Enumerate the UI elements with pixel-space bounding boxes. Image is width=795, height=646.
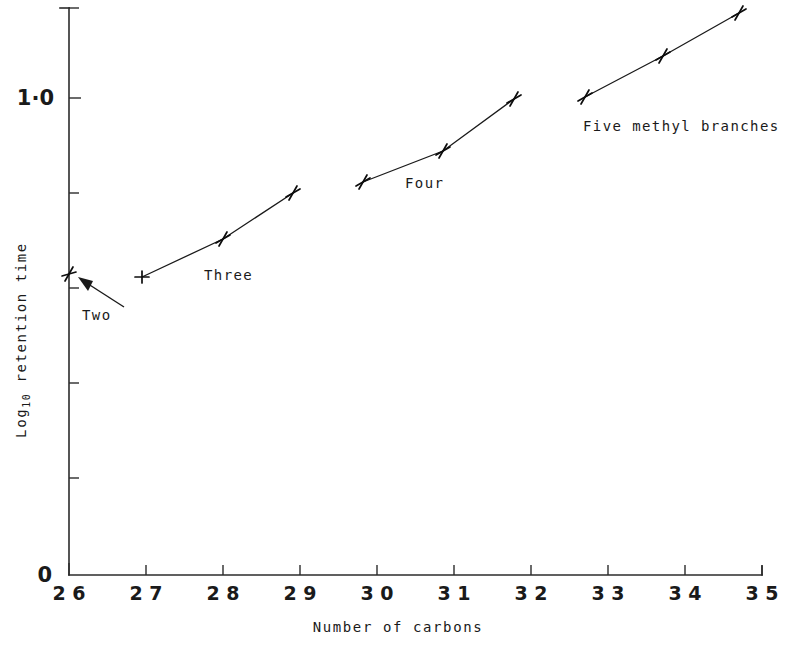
x-tick-label-27: 2 7 [129, 582, 162, 604]
series-three-line [142, 193, 293, 277]
y-tick-label-0: 0 [37, 563, 52, 587]
x-tick-label-29: 2 9 [283, 582, 316, 604]
y-axis-title-base: Log [13, 408, 29, 438]
x-tick-label-26: 2 6 [52, 582, 85, 604]
data-point-c32 [507, 92, 521, 106]
x-axis-ticks [69, 563, 762, 575]
y-tick-label-1-0: 1·0 [17, 86, 54, 110]
x-tick-label-34: 3 4 [668, 582, 701, 604]
data-point-c34 [656, 49, 670, 63]
series-two-label: Two [82, 307, 112, 323]
x-tick-label-31: 3 1 [437, 582, 470, 604]
data-point-c33 [578, 90, 592, 104]
y-axis-title-group: Log10 retention time [13, 242, 32, 438]
retention-time-plot: 1·0 0 2 6 2 7 2 8 2 9 3 0 3 1 3 2 3 3 3 … [0, 0, 795, 646]
series-four-label: Four [405, 175, 444, 191]
series-five: Five methyl branches [578, 6, 780, 134]
series-four: Four [356, 92, 521, 191]
x-tick-label-35: 3 5 [745, 582, 778, 604]
x-tick-label-28: 2 8 [206, 582, 239, 604]
y-axis-title-subscript: 10 [21, 393, 32, 408]
axes-group [60, 8, 762, 575]
x-tick-labels: 2 6 2 7 2 8 2 9 3 0 3 1 3 2 3 3 3 4 3 5 [52, 582, 778, 604]
data-point-c27 [135, 271, 149, 283]
data-point-c30 [356, 175, 370, 189]
x-tick-label-30: 3 0 [360, 582, 393, 604]
series-four-line [363, 99, 514, 182]
data-point-c31 [436, 144, 450, 158]
data-point-c35 [732, 6, 746, 20]
y-axis-title-rest: retention time [13, 242, 29, 392]
x-tick-label-33: 3 3 [591, 582, 624, 604]
x-tick-label-32: 3 2 [514, 582, 547, 604]
chart-figure: 1·0 0 2 6 2 7 2 8 2 9 3 0 3 1 3 2 3 3 3 … [0, 0, 795, 646]
y-axis-title: Log10 retention time [13, 242, 32, 438]
x-axis-title: Number of carbons [313, 619, 484, 635]
series-five-label: Five methyl branches [583, 118, 780, 134]
two-pointer-arrowhead [78, 277, 93, 291]
series-two [62, 267, 124, 307]
y-axis-ticks [69, 8, 81, 478]
data-point-c29 [286, 186, 300, 200]
series-three-label: Three [204, 267, 253, 283]
series-three: Three [135, 186, 300, 283]
data-point-c28 [216, 232, 230, 246]
series-five-line [585, 13, 739, 97]
